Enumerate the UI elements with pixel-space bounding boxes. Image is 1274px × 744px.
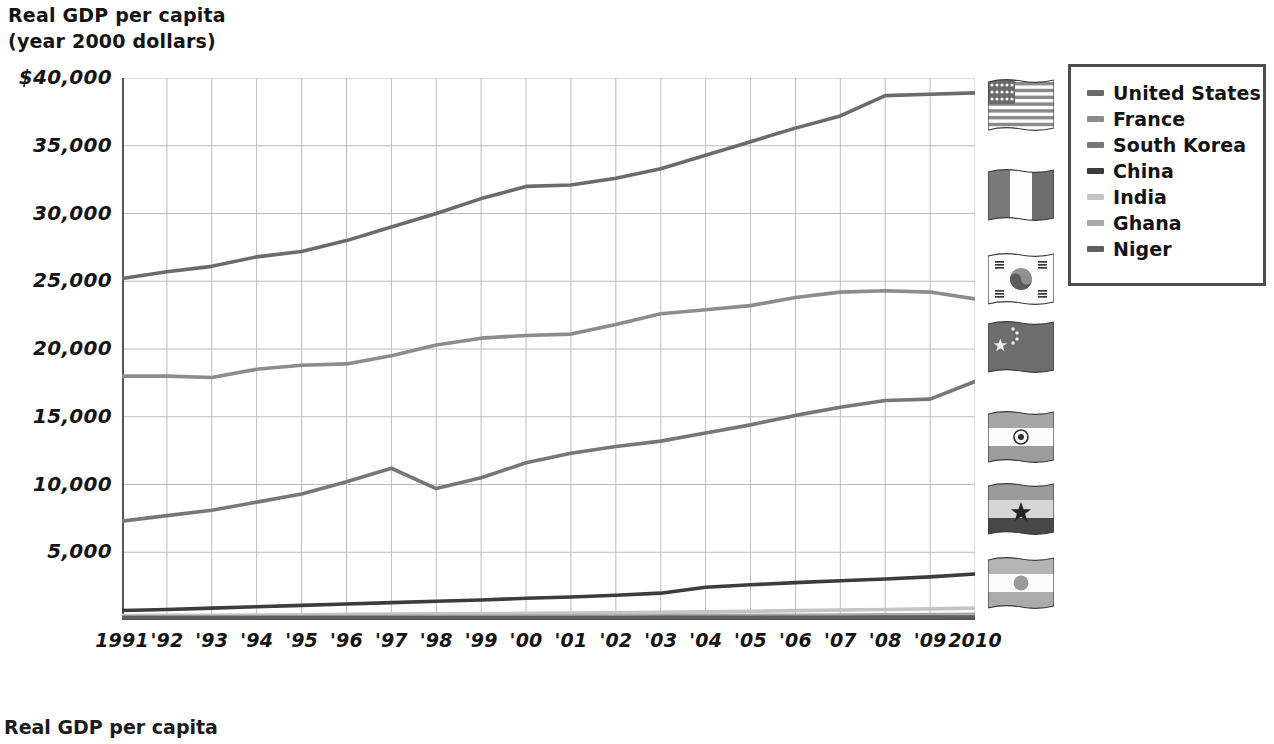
y-tick-label: 25,000 bbox=[2, 268, 112, 292]
ghana-flag bbox=[988, 482, 1054, 536]
series-line-china bbox=[122, 574, 975, 611]
legend-label: China bbox=[1113, 160, 1174, 182]
x-tick-label: '01 bbox=[555, 629, 588, 651]
legend-swatch-icon bbox=[1087, 116, 1104, 122]
y-tick-label: 20,000 bbox=[2, 336, 112, 360]
legend-label: Niger bbox=[1113, 238, 1172, 260]
legend-item-united-states[interactable]: United States bbox=[1087, 80, 1253, 106]
legend-item-india[interactable]: India bbox=[1087, 184, 1253, 210]
x-tick-label: '00 bbox=[510, 629, 543, 651]
india-flag bbox=[988, 410, 1054, 464]
x-tick-label: '02 bbox=[599, 629, 632, 651]
united-states-flag bbox=[988, 78, 1054, 132]
x-axis-labels: 1991'92'93'94'95'96'97'98'99'00'01'02'03… bbox=[0, 629, 1000, 663]
legend-label: France bbox=[1113, 108, 1185, 130]
south-korea-flag bbox=[988, 252, 1054, 306]
x-tick-label: '93 bbox=[195, 629, 228, 651]
legend-label: United States bbox=[1113, 82, 1261, 104]
footer-partial-text: Real GDP per capita bbox=[4, 716, 218, 742]
x-tick-label: '05 bbox=[734, 629, 767, 651]
series-line-south-korea bbox=[122, 382, 975, 522]
plot-svg bbox=[122, 78, 975, 620]
chart-legend: United StatesFranceSouth KoreaChinaIndia… bbox=[1068, 64, 1266, 286]
china-flag bbox=[988, 320, 1054, 374]
x-tick-label: '98 bbox=[420, 629, 453, 651]
legend-swatch-icon bbox=[1087, 220, 1104, 226]
y-tick-label: 10,000 bbox=[2, 472, 112, 496]
legend-item-niger[interactable]: Niger bbox=[1087, 236, 1253, 262]
legend-swatch-icon bbox=[1087, 194, 1104, 200]
y-tick-label: 5,000 bbox=[2, 539, 112, 563]
x-tick-label: '03 bbox=[644, 629, 677, 651]
x-tick-label: '97 bbox=[375, 629, 408, 651]
x-tick-label: '99 bbox=[465, 629, 498, 651]
series-line-united-states bbox=[122, 93, 975, 279]
x-tick-label: '07 bbox=[824, 629, 857, 651]
legend-item-france[interactable]: France bbox=[1087, 106, 1253, 132]
chart-page: Real GDP per capita (year 2000 dollars) … bbox=[0, 0, 1274, 744]
x-tick-label: '92 bbox=[150, 629, 183, 651]
y-tick-label: $40,000 bbox=[2, 65, 112, 89]
legend-swatch-icon bbox=[1087, 168, 1104, 174]
legend-swatch-icon bbox=[1087, 246, 1104, 252]
x-tick-label: '08 bbox=[869, 629, 902, 651]
x-tick-label: '04 bbox=[689, 629, 722, 651]
france-flag bbox=[988, 168, 1054, 222]
series-line-niger bbox=[122, 617, 975, 618]
legend-label: India bbox=[1113, 186, 1167, 208]
y-tick-label: 15,000 bbox=[2, 404, 112, 428]
series-line-france bbox=[122, 291, 975, 378]
plot-area bbox=[122, 78, 975, 620]
x-tick-label: '94 bbox=[240, 629, 273, 651]
x-tick-label: '06 bbox=[779, 629, 812, 651]
x-tick-label: 1991 bbox=[95, 629, 149, 651]
x-tick-label: '95 bbox=[285, 629, 318, 651]
legend-label: Ghana bbox=[1113, 212, 1182, 234]
x-tick-label: 2010 bbox=[948, 629, 1002, 651]
legend-swatch-icon bbox=[1087, 90, 1104, 96]
y-tick-label: 30,000 bbox=[2, 201, 112, 225]
legend-item-china[interactable]: China bbox=[1087, 158, 1253, 184]
x-tick-label: '96 bbox=[330, 629, 363, 651]
y-tick-label: 35,000 bbox=[2, 133, 112, 157]
legend-item-south-korea[interactable]: South Korea bbox=[1087, 132, 1253, 158]
x-tick-label: '09 bbox=[914, 629, 947, 651]
legend-label: South Korea bbox=[1113, 134, 1246, 156]
niger-flag bbox=[988, 556, 1054, 610]
legend-item-ghana[interactable]: Ghana bbox=[1087, 210, 1253, 236]
legend-swatch-icon bbox=[1087, 142, 1104, 148]
